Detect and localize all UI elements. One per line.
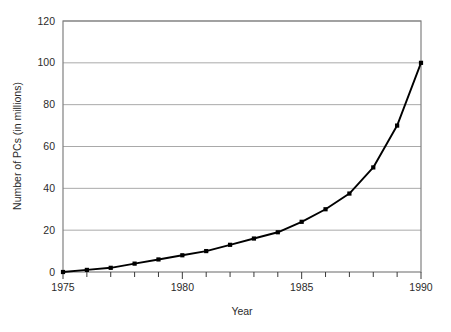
x-tick-label-1985: 1985 [290,281,314,293]
y-tick-label-100: 100 [37,56,55,68]
data-point-1985 [300,220,304,224]
x-axis-tick-labels: 1975198019851990 [51,281,433,293]
data-point-1980 [180,253,184,257]
line-chart: 020406080100120 1975198019851990 Number … [0,0,451,332]
data-series-line [63,63,421,272]
data-point-1977 [109,266,113,270]
y-tick-label-60: 60 [43,140,55,152]
data-point-1983 [252,236,256,240]
x-tick-label-1980: 1980 [171,281,195,293]
y-axis-tick-labels: 020406080100120 [37,15,55,278]
data-point-1981 [204,249,208,253]
y-tick-label-120: 120 [37,15,55,27]
data-point-1988 [371,165,375,169]
data-point-1982 [228,243,232,247]
data-point-1987 [347,191,351,195]
y-tick-label-80: 80 [43,98,55,110]
chart-container: 020406080100120 1975198019851990 Number … [0,0,451,332]
data-point-1976 [85,268,89,272]
data-point-1975 [61,270,65,274]
data-point-1979 [156,257,160,261]
x-tick-label-1975: 1975 [51,281,75,293]
data-point-1978 [133,262,137,266]
data-point-1986 [323,207,327,211]
x-axis-title: Year [231,305,253,317]
data-point-1984 [276,230,280,234]
gridlines-group [63,21,421,230]
data-point-1990 [419,61,423,65]
x-axis-ticks [63,272,421,279]
y-axis-title: Number of PCs (in millions) [11,82,23,210]
y-tick-label-40: 40 [43,182,55,194]
y-tick-label-0: 0 [49,266,55,278]
y-tick-label-20: 20 [43,224,55,236]
x-tick-label-1990: 1990 [409,281,433,293]
data-point-1989 [395,123,399,127]
series-polyline [63,63,421,272]
